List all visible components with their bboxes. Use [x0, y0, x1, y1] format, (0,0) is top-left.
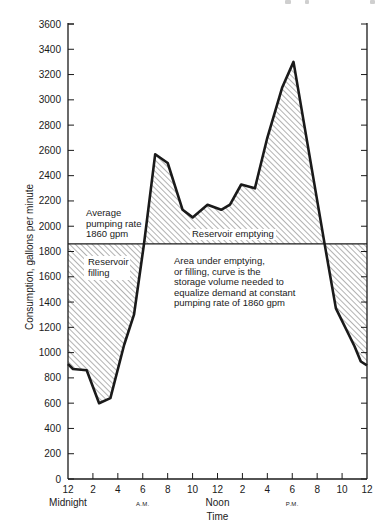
x-tick-label: 10 — [187, 484, 199, 495]
x-sublabel: Noon — [206, 497, 230, 508]
svg-text:storage volume needed to: storage volume needed to — [174, 276, 284, 287]
y-tick-label: 600 — [44, 398, 61, 409]
x-axis-title: Time — [207, 511, 229, 522]
y-tick-label: 3200 — [39, 69, 62, 80]
x-tick-label: 12 — [62, 484, 74, 495]
x-tick-label: 12 — [212, 484, 224, 495]
y-tick-label: 2400 — [39, 170, 62, 181]
y-axis-title: Consumption, gallons per minute — [24, 183, 35, 330]
y-tick-label: 2200 — [39, 195, 62, 206]
y-tick-label: 1800 — [39, 246, 62, 257]
svg-text:Average: Average — [86, 207, 121, 218]
svg-text:filling: filling — [88, 267, 110, 278]
y-tick-label: 800 — [44, 372, 61, 383]
average-pumping-rate-label: Averagepumping rate1860 gpm — [86, 207, 141, 239]
y-tick-label: 3600 — [39, 19, 62, 30]
x-sublabel: P.M. — [286, 501, 299, 507]
x-tick-label: 10 — [337, 484, 349, 495]
y-tick-label: 3400 — [39, 44, 62, 55]
y-tick-label: 2800 — [39, 120, 62, 131]
x-tick-label: 12 — [361, 484, 373, 495]
svg-text:Reservoir: Reservoir — [88, 256, 129, 267]
x-tick-label: 4 — [115, 484, 121, 495]
x-tick-label: 8 — [165, 484, 171, 495]
svg-text:pumping rate: pumping rate — [86, 218, 141, 229]
y-tick-label: 1200 — [39, 322, 62, 333]
x-sublabel: Midnight — [49, 497, 87, 508]
svg-text:Reservoir emptying: Reservoir emptying — [192, 228, 274, 239]
y-tick-label: 3000 — [39, 94, 62, 105]
y-tick-label: 0 — [55, 474, 61, 485]
storage-volume-note: Area under emptying,or filling, curve is… — [174, 255, 296, 308]
consumption-chart: 0200400600800100012001400160018002000220… — [0, 0, 388, 532]
x-tick-label: 2 — [90, 484, 96, 495]
x-sublabel: A.M. — [136, 501, 150, 507]
y-tick-label: 200 — [44, 448, 61, 459]
y-tick-label: 2600 — [39, 145, 62, 156]
svg-text:pumping rate of 1860 gpm: pumping rate of 1860 gpm — [174, 297, 285, 308]
x-tick-label: 8 — [314, 484, 320, 495]
x-tick-label: 2 — [240, 484, 246, 495]
y-tick-label: 1000 — [39, 347, 62, 358]
svg-text:Area under emptying,: Area under emptying, — [174, 255, 265, 266]
y-tick-label: 1400 — [39, 297, 62, 308]
y-tick-label: 1600 — [39, 271, 62, 282]
x-tick-label: 6 — [140, 484, 146, 495]
svg-text:equalize demand at constant: equalize demand at constant — [174, 287, 296, 298]
x-tick-label: 6 — [289, 484, 295, 495]
y-tick-label: 400 — [44, 423, 61, 434]
x-tick-label: 4 — [265, 484, 271, 495]
svg-text:or filling, curve is the: or filling, curve is the — [174, 266, 261, 277]
y-tick-label: 2000 — [39, 221, 62, 232]
svg-text:1860 gpm: 1860 gpm — [86, 228, 128, 239]
reservoir-filling-label: Reservoirfilling — [84, 256, 130, 280]
reservoir-emptying-label: Reservoir emptying — [190, 228, 276, 240]
